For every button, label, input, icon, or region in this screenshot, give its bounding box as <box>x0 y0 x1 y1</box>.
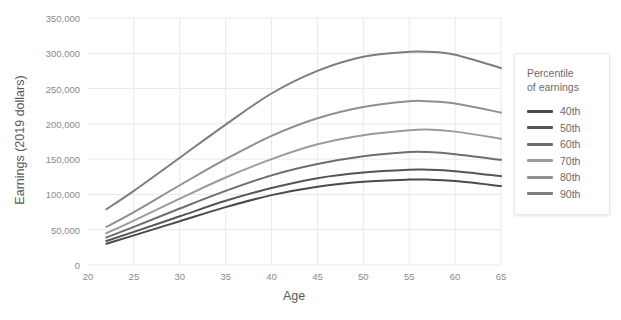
y-tick-label: 150,000 <box>46 154 80 165</box>
legend-item-90th[interactable]: 90th <box>527 186 599 203</box>
legend-item-40th[interactable]: 40th <box>527 103 599 120</box>
y-axis-tick-labels: 050,000100,000150,000200,000250,000300,0… <box>46 13 80 271</box>
y-tick-label: 250,000 <box>46 84 80 95</box>
y-tick-label: 0 <box>75 260 80 271</box>
gridlines <box>88 18 501 265</box>
legend-item-70th[interactable]: 70th <box>527 153 599 170</box>
y-axis-title: Earnings (2019 dollars) <box>13 75 27 204</box>
x-tick-label: 30 <box>174 271 185 282</box>
legend-title: Percentile of earnings <box>527 66 599 94</box>
y-tick-label: 200,000 <box>46 119 80 130</box>
legend-label-90th: 90th <box>560 188 580 200</box>
legend-swatch-70th <box>527 159 553 162</box>
legend-label-80th: 80th <box>560 171 580 183</box>
legend-label-50th: 50th <box>560 122 580 134</box>
x-tick-label: 35 <box>220 271 231 282</box>
legend-item-60th[interactable]: 60th <box>527 136 599 153</box>
legend-swatch-90th <box>527 192 553 195</box>
y-tick-label: 300,000 <box>46 48 80 59</box>
y-tick-label: 350,000 <box>46 13 80 24</box>
legend-item-50th[interactable]: 50th <box>527 120 599 137</box>
legend-swatch-80th <box>527 176 553 179</box>
x-tick-label: 55 <box>404 271 415 282</box>
legend-swatch-60th <box>527 143 553 146</box>
x-tick-label: 65 <box>496 271 507 282</box>
x-tick-label: 50 <box>358 271 369 282</box>
x-tick-label: 45 <box>312 271 323 282</box>
legend-items: 40th50th60th70th80th90th <box>527 103 599 202</box>
chart-figure: 050,000100,000150,000200,000250,000300,0… <box>0 0 621 320</box>
x-tick-label: 20 <box>83 271 94 282</box>
legend-swatch-50th <box>527 126 553 129</box>
x-axis-title: Age <box>283 289 305 303</box>
x-tick-label: 25 <box>129 271 140 282</box>
y-tick-label: 100,000 <box>46 189 80 200</box>
x-tick-label: 40 <box>266 271 277 282</box>
legend: Percentile of earnings 40th50th60th70th8… <box>514 53 610 215</box>
series-line-80th <box>106 101 501 227</box>
series-line-40th <box>106 179 501 243</box>
y-tick-label: 50,000 <box>51 225 80 236</box>
x-axis-tick-labels: 20253035404550556065 <box>83 271 507 282</box>
series-lines <box>106 51 501 243</box>
legend-label-60th: 60th <box>560 138 580 150</box>
legend-label-40th: 40th <box>560 105 580 117</box>
legend-swatch-40th <box>527 110 553 113</box>
legend-label-70th: 70th <box>560 155 580 167</box>
legend-item-80th[interactable]: 80th <box>527 169 599 186</box>
x-tick-label: 60 <box>450 271 461 282</box>
